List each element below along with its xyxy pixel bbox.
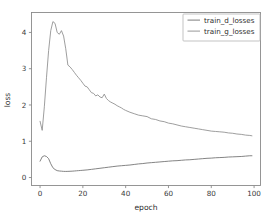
x-tick-label: 100: [247, 189, 261, 198]
y-tick-label: 3: [22, 64, 27, 73]
y-axis-label: loss: [3, 93, 12, 108]
legend-label-train_d_losses[interactable]: train_d_losses: [204, 16, 255, 25]
chart-figure: 020406080100 01234 epoch loss train_d_lo…: [0, 0, 273, 218]
chart-legend[interactable]: train_d_lossestrain_g_losses: [183, 14, 260, 41]
y-tick-label: 0: [22, 173, 27, 182]
x-tick-label: 0: [38, 189, 43, 198]
x-axis-label: epoch: [134, 203, 157, 212]
x-tick-label: 40: [121, 189, 131, 198]
y-tick-label: 4: [22, 28, 27, 37]
x-tick-label: 80: [207, 189, 217, 198]
legend-label-train_g_losses[interactable]: train_g_losses: [204, 27, 255, 36]
y-tick-label: 1: [22, 137, 27, 146]
x-tick-label: 60: [164, 189, 174, 198]
y-tick-label: 2: [22, 101, 27, 110]
loss-curve-chart: 020406080100 01234 epoch loss train_d_lo…: [0, 0, 273, 218]
x-tick-label: 20: [78, 189, 88, 198]
